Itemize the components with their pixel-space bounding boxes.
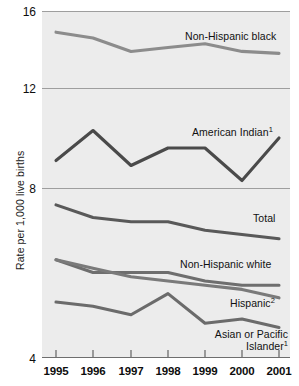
- series-label-asian-pacific-line2: Islander: [246, 340, 284, 352]
- series-label-hispanic: Hispanic2: [230, 297, 275, 309]
- series-label-total-text: Total: [253, 212, 275, 224]
- x-tick-1996: 1996: [73, 365, 113, 377]
- series-label-non-hispanic-black-text: Non-Hispanic black: [185, 30, 276, 42]
- series-label-american-indian-text: American Indian: [192, 126, 269, 138]
- series-label-american-indian-footnote: 1: [269, 125, 273, 134]
- x-tick-1995: 1995: [36, 365, 76, 377]
- x-tick-2000: 2000: [222, 365, 262, 377]
- series-label-american-indian: American Indian1: [192, 126, 273, 138]
- x-tick-1999: 1999: [185, 365, 225, 377]
- chart-container: Rate per 1,000 live births 16 12 8 4: [0, 0, 299, 386]
- series-label-total: Total: [253, 212, 275, 224]
- series-label-asian-pacific-islander: Asian or Pacific Islander1: [180, 328, 288, 352]
- x-tick-1997: 1997: [111, 365, 151, 377]
- series-label-hispanic-text: Hispanic: [230, 297, 271, 309]
- series-label-hispanic-footnote: 2: [271, 296, 275, 305]
- series-label-asian-pacific-footnote: 1: [284, 339, 288, 348]
- series-label-non-hispanic-black: Non-Hispanic black: [185, 30, 276, 42]
- x-tick-1998: 1998: [148, 365, 188, 377]
- series-label-non-hispanic-white: Non-Hispanic white: [180, 258, 271, 270]
- series-label-non-hispanic-white-text: Non-Hispanic white: [180, 258, 271, 270]
- x-tick-2001: 2001: [259, 365, 299, 377]
- series-label-asian-pacific-line1: Asian or Pacific: [215, 328, 288, 340]
